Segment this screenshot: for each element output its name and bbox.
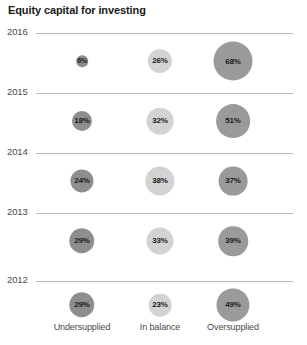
bubble-value-label: 49% [225,301,240,309]
bubble-oversupplied-2016[interactable]: 68% [214,42,253,81]
bubble-value-label: 29% [74,237,89,245]
bubble-oversupplied-2015[interactable]: 51% [216,104,250,138]
bubble-in-balance-2014[interactable]: 38% [145,166,174,195]
bubble-value-label: 26% [152,57,167,65]
category-label-in-balance: In balance [140,322,181,332]
bubble-undersupplied-2013[interactable]: 29% [69,228,94,253]
year-axis-label: 2012 [7,274,28,285]
category-label-undersupplied: Undersupplied [54,322,111,332]
bubble-in-balance-2012[interactable]: 23% [149,294,172,317]
bubble-in-balance-2015[interactable]: 32% [147,108,174,135]
gridline [36,281,293,282]
bubble-value-label: 37% [225,177,240,185]
gridline [36,33,293,34]
bubble-oversupplied-2014[interactable]: 37% [219,167,248,196]
bubble-in-balance-2016[interactable]: 26% [148,49,172,73]
category-label-oversupplied: Oversupplied [207,322,259,332]
bubble-value-label: 38% [152,177,167,185]
bubble-value-label: 33% [152,237,167,245]
year-axis-label: 2016 [7,26,28,37]
bubble-undersupplied-2015[interactable]: 18% [72,111,92,131]
bubble-undersupplied-2016[interactable]: 6% [76,55,88,67]
bubble-in-balance-2013[interactable]: 33% [146,227,173,254]
bubble-undersupplied-2012[interactable]: 29% [69,292,94,317]
bubble-value-label: 23% [152,301,167,309]
category-axis: UndersuppliedIn balanceOversupplied [0,322,307,338]
bubble-value-label: 39% [225,237,240,245]
page-title: Equity capital for investing [8,4,146,16]
bubble-value-label: 6% [77,57,87,64]
gridline [36,153,293,154]
bubble-oversupplied-2013[interactable]: 39% [218,226,248,256]
bubble-oversupplied-2012[interactable]: 49% [216,288,249,321]
bubble-value-label: 29% [74,301,89,309]
gridline [36,93,293,94]
bubble-value-label: 51% [225,117,240,125]
year-axis-label: 2015 [7,86,28,97]
year-axis-label: 2014 [7,146,28,157]
bubble-value-label: 18% [74,117,89,125]
bubble-value-label: 68% [225,57,240,65]
bubble-undersupplied-2014[interactable]: 24% [70,169,93,192]
bubble-value-label: 32% [152,117,167,125]
gridline [36,213,293,214]
year-axis-label: 2013 [7,206,28,217]
bubble-chart: Equity capital for investing 20166%26%68… [0,0,307,345]
bubble-value-label: 24% [74,177,89,185]
